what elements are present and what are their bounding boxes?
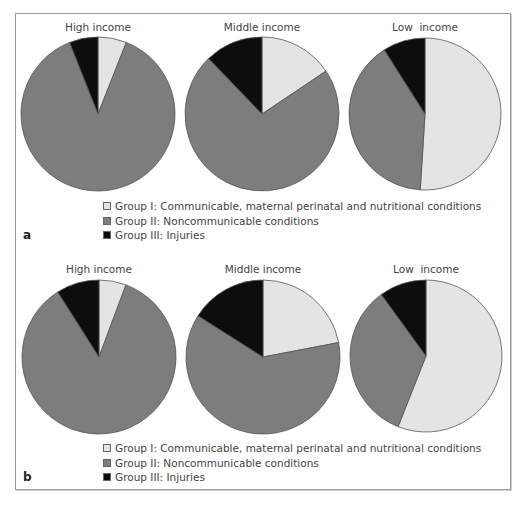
- swatch-group-3-icon: [103, 473, 111, 481]
- pie-chart-low-income-b: [0, 0, 522, 506]
- legend-item-group-2: Group II: Noncommunicable conditions: [103, 456, 481, 471]
- swatch-group-1-icon: [103, 444, 111, 452]
- legend-item-group-1: Group I: Communicable, maternal perinata…: [103, 441, 481, 456]
- legend-label: Group III: Injuries: [115, 471, 205, 483]
- legend-label: Group I: Communicable, maternal perinata…: [115, 442, 481, 454]
- legend-item-group-3: Group III: Injuries: [103, 470, 481, 485]
- swatch-group-2-icon: [103, 459, 111, 467]
- panel-label-b: b: [23, 470, 32, 484]
- legend-b: Group I: Communicable, maternal perinata…: [103, 441, 481, 485]
- legend-label: Group II: Noncommunicable conditions: [115, 457, 319, 469]
